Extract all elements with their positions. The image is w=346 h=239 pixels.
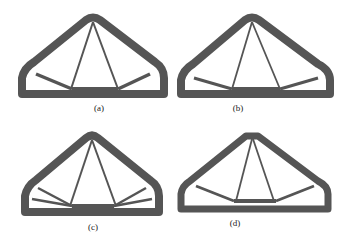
panel-b-label: (b) <box>233 103 244 113</box>
panel-d-label: (d) <box>230 218 241 228</box>
panel-c-structure <box>25 136 159 213</box>
panel-a-label: (a) <box>94 103 104 113</box>
figure-canvas <box>0 0 346 239</box>
panel-a-structure <box>22 18 164 95</box>
panel-c-label: (c) <box>88 222 98 232</box>
panel-d-structure <box>181 136 328 209</box>
panel-b-structure <box>181 18 330 95</box>
